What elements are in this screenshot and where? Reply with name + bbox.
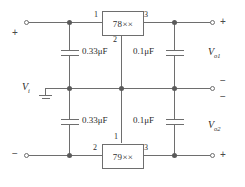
ic-negative-pin-1: 1 — [114, 132, 118, 141]
wire-mid-left — [67, 88, 120, 89]
wire-bottom-left-in — [28, 155, 67, 156]
junction-top-left — [67, 20, 72, 25]
wire-top-to-ic — [67, 22, 102, 23]
junction-mid-right — [172, 86, 177, 91]
ic-negative-pin-3: 3 — [144, 143, 148, 152]
junction-top-right — [172, 20, 177, 25]
ic-positive-pin-1: 1 — [94, 10, 98, 19]
junction-bottom-right — [172, 153, 177, 158]
ic-positive-regulator-label: 78×× — [113, 19, 133, 29]
ic-negative-regulator[interactable]: 79×× — [102, 144, 144, 169]
wire-cap4-lower-leg — [174, 125, 175, 155]
wire-mid-right — [120, 88, 172, 89]
output2-voltage-label: Vo2 — [208, 119, 221, 132]
ground-icon — [39, 88, 53, 100]
ic-positive-regulator[interactable]: 78×× — [102, 11, 144, 36]
terminal-input-positive[interactable] — [24, 20, 29, 25]
capacitor-input-top-icon — [61, 50, 79, 56]
wire-bottom-to-ic — [67, 155, 102, 156]
capacitor-input-bottom-icon — [61, 119, 79, 125]
output1-voltage-subscript: o1 — [214, 52, 221, 59]
ic-positive-pin-2: 2 — [113, 35, 117, 44]
junction-mid-left — [67, 86, 72, 91]
output1-voltage-label: Vo1 — [208, 46, 221, 59]
sign-left-top: + — [12, 28, 18, 38]
terminal-output2-positive[interactable] — [210, 153, 215, 158]
wire-cap3-upper-leg — [174, 22, 175, 50]
sign-right-mid-upper: − — [220, 76, 226, 86]
terminal-output-common[interactable] — [210, 86, 215, 91]
input-voltage-label: Vi — [22, 81, 30, 94]
output2-voltage-subscript: o2 — [214, 125, 221, 132]
wire-ic-bottom-pin1-to-mid — [121, 88, 122, 143]
wire-cap1-upper-leg — [69, 22, 70, 50]
wire-cap2-lower-leg — [69, 125, 70, 155]
ic-negative-pin-2: 2 — [93, 143, 97, 152]
capacitor-output-top-icon — [166, 50, 184, 56]
wire-top-left-in — [28, 22, 67, 23]
wire-cap4-upper-leg — [174, 88, 175, 119]
terminal-input-negative[interactable] — [24, 153, 29, 158]
wire-bottom-ic-to-node — [142, 155, 172, 156]
wire-cap3-lower-leg — [174, 56, 175, 88]
sign-left-bottom: − — [12, 149, 18, 159]
wire-cap1-lower-leg — [69, 56, 70, 88]
wire-top-ic-to-node — [142, 22, 172, 23]
circuit-diagram: + − + − − + Vi Vo1 Vo2 78×× 1 3 2 79×× 2… — [0, 0, 245, 187]
sign-right-mid-lower: − — [220, 92, 226, 102]
wire-ic-top-pin2-to-mid — [121, 34, 122, 88]
capacitor-input-bottom-label: 0.33μF — [82, 115, 108, 125]
sign-right-top: + — [220, 17, 226, 27]
wire-mid-out — [172, 88, 212, 89]
capacitor-input-top-label: 0.33μF — [82, 46, 108, 56]
terminal-output1-positive[interactable] — [210, 20, 215, 25]
wire-bottom-right-out — [172, 155, 212, 156]
input-voltage-subscript: i — [28, 87, 30, 94]
sign-right-bottom: + — [220, 150, 226, 160]
ic-positive-pin-3: 3 — [144, 10, 148, 19]
wire-top-right-out — [172, 22, 212, 23]
capacitor-output-bottom-icon — [166, 119, 184, 125]
capacitor-output-top-label: 0.1μF — [133, 46, 154, 56]
ic-negative-regulator-label: 79×× — [113, 152, 133, 162]
junction-mid-center — [119, 86, 124, 91]
wire-cap2-upper-leg — [69, 88, 70, 119]
capacitor-output-bottom-label: 0.1μF — [133, 115, 154, 125]
junction-bottom-left — [67, 153, 72, 158]
